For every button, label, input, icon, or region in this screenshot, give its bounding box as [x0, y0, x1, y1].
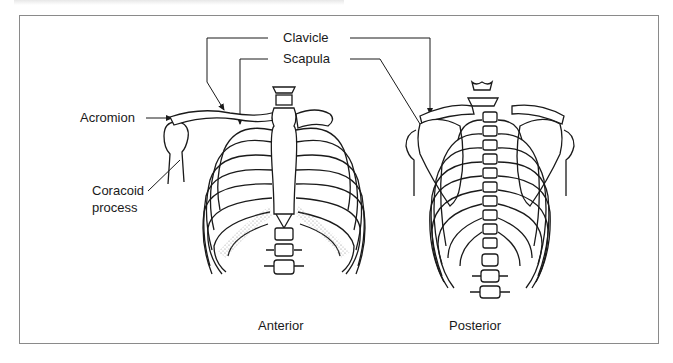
label-acromion: Acromion — [80, 110, 135, 125]
label-coracoid-process: Coracoid process — [92, 182, 144, 216]
scapula-leader-posterior — [350, 59, 428, 137]
label-clavicle: Clavicle — [283, 30, 329, 45]
clavicle-leader-anterior — [207, 38, 268, 110]
view-label-anterior: Anterior — [258, 318, 304, 333]
label-coracoid-line1: Coracoid — [92, 182, 144, 199]
posterior-ribcage — [406, 82, 574, 298]
coracoid-leader — [148, 160, 180, 191]
view-label-posterior: Posterior — [449, 318, 501, 333]
anterior-ribcage — [164, 87, 365, 274]
label-scapula: Scapula — [283, 51, 330, 66]
label-coracoid-line2: process — [92, 199, 144, 216]
